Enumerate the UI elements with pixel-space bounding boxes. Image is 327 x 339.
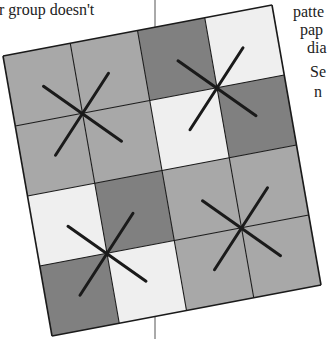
grid-cell-medium [70, 31, 150, 114]
grid-cell-medium [229, 145, 309, 228]
grid-cell-medium [3, 43, 83, 126]
grid-cell-medium [162, 158, 242, 241]
grid-cell-light [28, 183, 108, 266]
grid-cell-dark [138, 18, 218, 101]
grid-cell-dark [95, 171, 175, 254]
grid-cell-light [205, 5, 285, 88]
